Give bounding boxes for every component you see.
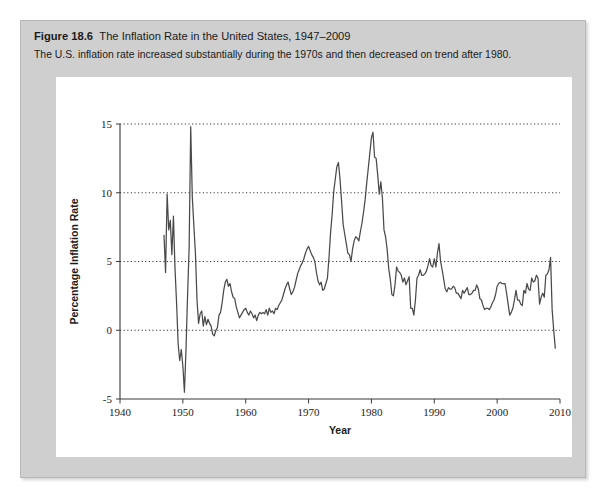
figure-number: Figure 18.6: [34, 30, 93, 42]
x-tick-label-1950: 1950: [172, 406, 195, 418]
x-tick-label-1980: 1980: [360, 406, 383, 418]
x-tick-label-1940: 1940: [109, 406, 132, 418]
y-tick-label-5: 5: [107, 255, 113, 267]
x-tick-label-2000: 2000: [486, 406, 509, 418]
figure-subtitle: The U.S. inflation rate increased substa…: [34, 47, 570, 62]
figure-root: Figure 18.6 The Inflation Rate in the Un…: [0, 0, 606, 503]
series-line-0: [164, 127, 555, 392]
series-group: [164, 127, 555, 392]
figure-caption: Figure 18.6 The Inflation Rate in the Un…: [34, 29, 570, 62]
inflation-line-chart: -505101519401950196019701980199020002010…: [56, 77, 572, 457]
plot-panel: -505101519401950196019701980199020002010…: [56, 77, 572, 457]
figure-title-line: Figure 18.6 The Inflation Rate in the Un…: [34, 29, 570, 44]
x-tick-label-1960: 1960: [235, 406, 258, 418]
x-tick-label-2010: 2010: [549, 406, 572, 418]
x-tick-label-1990: 1990: [423, 406, 446, 418]
figure-card: Figure 18.6 The Inflation Rate in the Un…: [20, 20, 586, 478]
y-tick-label-15: 15: [101, 118, 113, 130]
y-axis-title: Percentage Inflation Rate: [68, 198, 80, 324]
x-tick-label-1970: 1970: [298, 406, 321, 418]
x-axis-title: Year: [329, 424, 351, 436]
tick-labels-group: -505101519401950196019701980199020002010: [101, 118, 572, 418]
figure-title: The Inflation Rate in the United States,…: [99, 30, 350, 42]
y-tick-label--5: -5: [103, 393, 113, 405]
y-tick-label-10: 10: [101, 187, 113, 199]
y-tick-label-0: 0: [107, 324, 113, 336]
